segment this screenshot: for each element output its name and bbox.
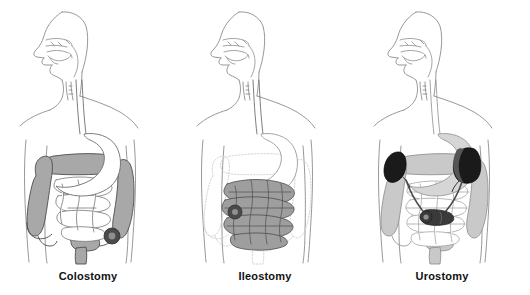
- panel-ileostomy: Ileostomy: [177, 0, 353, 295]
- nasal-detail: [228, 40, 247, 46]
- colostomy-stoma: [104, 228, 120, 244]
- soft-palate: [401, 51, 426, 59]
- panel-label-ileostomy: Ileostomy: [177, 270, 353, 282]
- right-shoulder: [80, 96, 138, 128]
- left-torso-side: [202, 140, 207, 262]
- chin-profile: [50, 65, 62, 80]
- right-shoulder: [434, 96, 492, 128]
- left-shoulder: [20, 110, 50, 126]
- ileostomy-svg: [177, 0, 353, 265]
- trachea-front: [420, 82, 422, 100]
- colostomy-illustration: [0, 0, 176, 265]
- appendix: [392, 236, 411, 246]
- forehead-nose-profile: [34, 12, 62, 58]
- panel-colostomy: Colostomy: [0, 0, 176, 295]
- trachea-back: [71, 82, 73, 100]
- urostomy-svg: [354, 0, 530, 265]
- skull-back: [239, 12, 265, 72]
- soft-palate: [224, 51, 249, 59]
- right-hip-line: [303, 146, 305, 263]
- forehead-nose-profile: [211, 12, 239, 58]
- colostomy-svg: [0, 0, 176, 265]
- pharynx: [426, 46, 432, 77]
- jaw-to-neck: [227, 80, 241, 110]
- hard-palate: [400, 45, 421, 47]
- nasal-detail: [405, 40, 424, 46]
- ostomy-types-figure: Colostomy: [0, 0, 530, 295]
- trachea-back: [425, 82, 427, 100]
- nasal-detail-3: [51, 42, 54, 45]
- right-shoulder: [257, 96, 315, 128]
- hard-palate: [46, 45, 67, 47]
- neck-back-line: [80, 72, 82, 96]
- rectum: [429, 247, 441, 264]
- pharynx: [72, 46, 78, 77]
- urostomy-stoma: [420, 211, 432, 223]
- rectum: [75, 247, 87, 264]
- trachea-back: [248, 82, 250, 100]
- urostomy-illustration: [354, 0, 530, 265]
- right-torso-side: [308, 140, 313, 262]
- esophagus-right: [259, 80, 263, 134]
- panel-urostomy: Urostomy: [354, 0, 530, 295]
- chin-profile: [404, 65, 416, 80]
- panel-label-urostomy: Urostomy: [354, 270, 530, 282]
- esophagus-right: [82, 80, 86, 134]
- left-shoulder: [374, 110, 404, 126]
- hard-palate: [223, 45, 244, 47]
- esophagus-left: [430, 80, 434, 134]
- neck-back-line: [434, 72, 436, 96]
- neck-back-line: [257, 72, 259, 96]
- jaw-to-neck: [404, 80, 418, 110]
- chin-profile: [227, 65, 239, 80]
- ileostomy-illustration: [177, 0, 353, 265]
- ascending-colon: [27, 156, 52, 236]
- forehead-nose-profile: [388, 12, 416, 58]
- panel-label-colostomy: Colostomy: [0, 270, 176, 282]
- skull-back: [416, 12, 442, 72]
- esophagus-left: [253, 80, 257, 134]
- jaw-to-neck: [50, 80, 64, 110]
- trachea-front: [66, 82, 68, 100]
- esophagus-left: [76, 80, 80, 134]
- esophagus-right: [436, 80, 440, 134]
- trachea-front: [243, 82, 245, 100]
- soft-palate: [47, 51, 72, 59]
- skull-back: [62, 12, 88, 72]
- ileostomy-stoma: [228, 205, 242, 219]
- pharynx: [249, 46, 255, 77]
- left-shoulder: [197, 110, 227, 126]
